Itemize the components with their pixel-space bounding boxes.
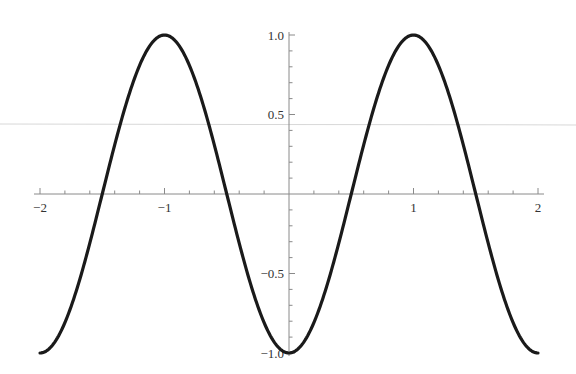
axes (34, 32, 544, 356)
y-tick-label: 1.0 (268, 28, 284, 43)
y-tick-label: 0.5 (268, 107, 284, 122)
x-tick-label: 2 (535, 200, 542, 215)
x-tick-label: −1 (158, 200, 172, 215)
plot-area: −2−1121.00.5−0.5−1.0 (0, 0, 576, 374)
x-tick-label: −2 (33, 200, 47, 215)
x-tick-label: 1 (410, 200, 417, 215)
y-tick-label: −0.5 (260, 266, 284, 281)
